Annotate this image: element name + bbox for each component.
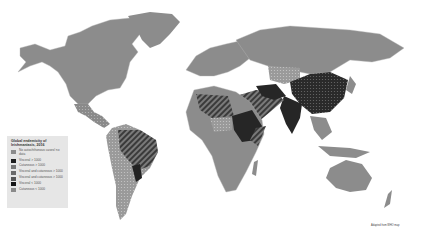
legend-item: Visceral > 1000 xyxy=(11,159,65,163)
legend-label: Cutaneous > 1000 xyxy=(19,164,45,168)
region-russia xyxy=(236,26,404,74)
swatch-visceral-cutaneous-striped xyxy=(11,177,16,181)
region-indonesia xyxy=(318,146,370,158)
legend-item: Cutaneous > 1000 xyxy=(11,164,65,168)
region-japan xyxy=(346,76,356,94)
legend-label: Visceral and cutaneous > 1000 xyxy=(19,170,63,174)
region-madagascar xyxy=(252,160,258,176)
legend-label: Visceral < 1000 xyxy=(19,182,41,186)
region-australia xyxy=(326,160,372,192)
legend-item: Visceral and cutaneous > 1000 xyxy=(11,170,65,174)
swatch-visceral xyxy=(11,159,16,163)
swatch-visceral-low xyxy=(11,182,16,186)
legend-label: Cutaneous < 1000 xyxy=(19,188,45,192)
map-legend: Global endemicity of leishmaniasis, 2016… xyxy=(7,136,68,208)
map-credit: Adapted from WHO map xyxy=(371,224,399,227)
legend-item: Cutaneous < 1000 xyxy=(11,188,65,192)
legend-label: Visceral and cutaneous > 1000 xyxy=(19,176,63,180)
legend-item: Visceral < 1000 xyxy=(11,182,65,186)
region-central-america xyxy=(74,104,110,128)
swatch-cutaneous-low xyxy=(11,188,16,192)
legend-label: Visceral > 1000 xyxy=(19,159,41,163)
swatch-no-data xyxy=(11,150,16,154)
legend-item: Visceral and cutaneous > 1000 xyxy=(11,176,65,180)
region-southeast-asia xyxy=(310,116,332,140)
region-north-america xyxy=(18,18,150,104)
swatch-visceral-cutaneous xyxy=(11,171,16,175)
legend-title: Global endemicity of leishmaniasis, 2016 xyxy=(11,139,65,147)
legend-label: No autochthonous cases/ no data xyxy=(19,149,65,157)
region-new-zealand xyxy=(384,190,392,208)
swatch-cutaneous xyxy=(11,165,16,169)
legend-item: No autochthonous cases/ no data xyxy=(11,149,65,157)
